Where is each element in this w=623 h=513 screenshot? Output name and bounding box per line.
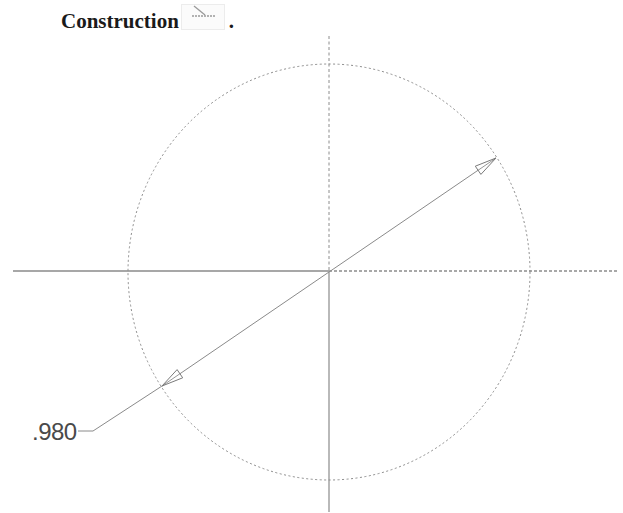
sketch-canvas: [0, 0, 623, 513]
dimension-leader: [78, 386, 162, 431]
dimension-value-label[interactable]: .980: [32, 420, 77, 444]
